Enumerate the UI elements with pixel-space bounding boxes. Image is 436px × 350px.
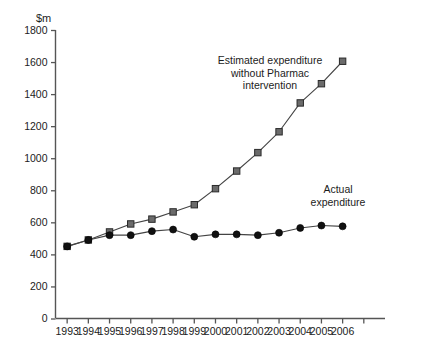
- data-point-marker: [318, 80, 324, 86]
- y-tick-label: 0: [42, 312, 48, 324]
- data-point-marker: [318, 222, 325, 229]
- data-point-marker: [255, 149, 261, 155]
- y-tick-label: 600: [30, 216, 48, 228]
- y-tick-label: 400: [30, 248, 48, 260]
- x-tick-label: 2004: [289, 325, 313, 337]
- data-point-marker: [106, 232, 113, 239]
- data-point-marker: [148, 228, 155, 235]
- y-tick-label: 800: [30, 184, 48, 196]
- data-point-marker: [191, 202, 197, 208]
- x-tick-label: 2006: [331, 325, 355, 337]
- x-axis-tick-labels: 1993199419951996199719981999200020012002…: [55, 325, 354, 337]
- chart-container: $m 020040060080010001200140016001800 199…: [0, 0, 436, 350]
- x-tick-label: 2001: [225, 325, 249, 337]
- x-tick-label: 1995: [98, 325, 122, 337]
- x-tick-label: 2005: [310, 325, 334, 337]
- chart-background: [0, 0, 436, 350]
- data-point-marker: [170, 209, 176, 215]
- data-point-marker: [276, 229, 283, 236]
- data-point-marker: [149, 216, 155, 222]
- x-tick-label: 2000: [204, 325, 228, 337]
- data-point-marker: [339, 223, 346, 230]
- actual-annotation-line: expenditure: [311, 196, 366, 208]
- x-tick-label: 1996: [119, 325, 143, 337]
- x-tick-label: 1993: [55, 325, 79, 337]
- data-point-marker: [212, 185, 218, 191]
- y-tick-label: 1400: [24, 88, 48, 100]
- data-point-marker: [254, 232, 261, 239]
- expenditure-line-chart: $m 020040060080010001200140016001800 199…: [0, 0, 436, 350]
- x-tick-label: 1994: [77, 325, 101, 337]
- y-axis-unit-label: $m: [36, 12, 51, 24]
- x-tick-label: 1999: [183, 325, 207, 337]
- data-point-marker: [85, 236, 92, 243]
- y-tick-label: 1200: [24, 120, 48, 132]
- data-point-marker: [64, 243, 71, 250]
- y-tick-label: 200: [30, 280, 48, 292]
- data-point-marker: [276, 129, 282, 135]
- y-tick-label: 1600: [24, 56, 48, 68]
- data-point-marker: [170, 226, 177, 233]
- data-point-marker: [339, 58, 345, 64]
- y-tick-label: 1000: [24, 152, 48, 164]
- data-point-marker: [212, 231, 219, 238]
- x-tick-label: 1998: [161, 325, 185, 337]
- data-point-marker: [233, 231, 240, 238]
- y-tick-label: 1800: [24, 24, 48, 36]
- actual-annotation-line: Actual: [323, 183, 352, 195]
- data-point-marker: [233, 168, 239, 174]
- x-tick-label: 2002: [246, 325, 270, 337]
- data-point-marker: [297, 224, 304, 231]
- y-axis-unit-group: $m: [36, 12, 51, 24]
- estimated-annotation-line: Estimated expenditure: [218, 54, 323, 66]
- x-tick-label: 2003: [267, 325, 291, 337]
- data-point-marker: [191, 233, 198, 240]
- data-point-marker: [128, 221, 134, 227]
- x-tick-label: 1997: [140, 325, 164, 337]
- estimated-annotation-line: intervention: [243, 79, 297, 91]
- data-point-marker: [297, 100, 303, 106]
- estimated-annotation-line: without Pharmac: [230, 67, 309, 79]
- data-point-marker: [127, 232, 134, 239]
